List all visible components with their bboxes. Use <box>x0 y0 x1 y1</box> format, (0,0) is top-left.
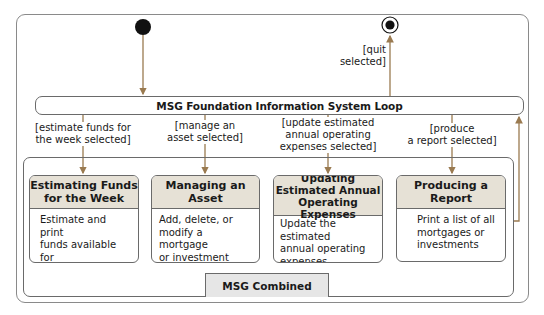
guard-manage-asset: [manage an asset selected] <box>160 120 250 144</box>
guard-line: [manage an <box>160 120 250 132</box>
composite-name-tab: MSG Combined <box>205 273 329 297</box>
state-title: Estimating Funds <box>30 179 138 192</box>
state-title: Producing a <box>414 179 488 192</box>
guard-line: expenses selected] <box>276 141 380 153</box>
state-body: Print a list of all mortgages or investm… <box>397 209 505 252</box>
state-body-line: modify a mortgage <box>159 227 253 252</box>
state-body: Add, delete, or modify a mortgage or inv… <box>152 209 259 263</box>
state-title: Asset <box>165 192 245 205</box>
state-title: Managing an <box>165 179 245 192</box>
state-body-line: annual operating <box>280 243 378 256</box>
guard-line: [produce <box>404 123 500 135</box>
guard-line: [estimate funds for <box>33 122 133 134</box>
guard-line: [update estimated <box>276 117 380 129</box>
state-title: Updating <box>274 175 382 184</box>
state-header: Estimating Funds for the Week <box>30 176 138 209</box>
state-producing-report[interactable]: Producing a Report Print a list of all m… <box>396 175 506 262</box>
state-body-line: funds available for <box>40 239 132 263</box>
state-header: Producing a Report <box>397 176 505 209</box>
loop-state[interactable]: MSG Foundation Information System Loop <box>35 96 524 115</box>
state-body-line: investments <box>417 239 499 252</box>
state-body-line: Add, delete, or <box>159 214 253 227</box>
guard-update-expenses: [update estimated annual operating expen… <box>276 117 380 153</box>
composite-label: MSG Combined <box>222 280 311 292</box>
state-header: Updating Estimated Annual Operating Expe… <box>274 176 382 216</box>
state-title: for the Week <box>30 192 138 205</box>
state-body-line: Update the estimated <box>280 218 378 243</box>
loop-state-title: MSG Foundation Information System Loop <box>156 100 402 112</box>
state-body: Update the estimated annual operating ex… <box>274 216 382 263</box>
state-body-line: Estimate and print <box>40 214 132 239</box>
guard-line: selected] <box>340 56 386 68</box>
guard-line: asset selected] <box>160 132 250 144</box>
state-title: Estimated Annual <box>274 184 382 196</box>
state-body-line: expenses <box>280 256 378 264</box>
guard-line: the week selected] <box>33 134 133 146</box>
guard-line: [quit <box>340 44 386 56</box>
state-body: Estimate and print funds available for t… <box>30 209 138 263</box>
state-managing-asset[interactable]: Managing an Asset Add, delete, or modify… <box>151 175 260 263</box>
state-header: Managing an Asset <box>152 176 259 209</box>
guard-line: a report selected] <box>404 135 500 147</box>
state-updating-expenses[interactable]: Updating Estimated Annual Operating Expe… <box>273 175 383 263</box>
guard-produce-report: [produce a report selected] <box>404 123 500 147</box>
state-body-line: Print a list of all <box>417 214 499 227</box>
guard-line: annual operating <box>276 129 380 141</box>
guard-estimate-funds: [estimate funds for the week selected] <box>33 122 133 146</box>
state-title: Report <box>414 192 488 205</box>
state-title: Operating Expenses <box>274 196 382 220</box>
state-estimating-funds[interactable]: Estimating Funds for the Week Estimate a… <box>29 175 139 263</box>
state-body-line: or investment <box>159 252 253 264</box>
initial-node-icon <box>135 19 151 35</box>
state-body-line: mortgages or <box>417 227 499 240</box>
